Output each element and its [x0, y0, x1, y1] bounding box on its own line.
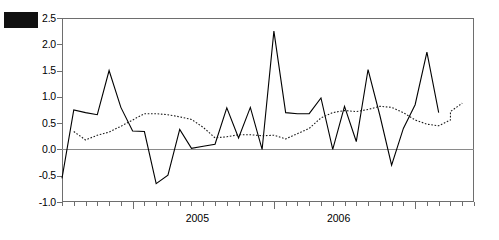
series-trend	[74, 103, 462, 140]
data-series-layer	[0, 0, 499, 240]
chart-root: 2.52.01.51.00.50.0-0.5-1.020052006	[0, 0, 499, 240]
series-observed	[62, 31, 439, 183]
